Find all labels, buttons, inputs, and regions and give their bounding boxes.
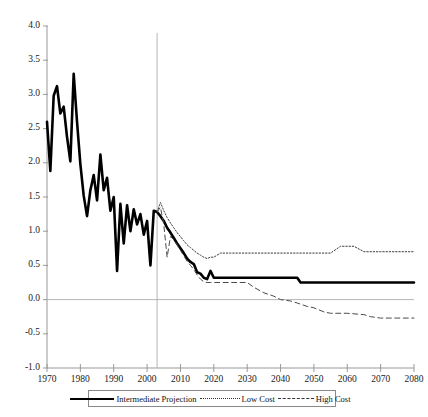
legend-item-intermediate-projection: Intermediate Projection bbox=[70, 394, 199, 404]
chart-legend: Intermediate Projection Low Cost High Co… bbox=[88, 390, 336, 407]
y-axis-label-0p0: 0.0 bbox=[8, 293, 40, 303]
y-axis-label-1p0: 1.0 bbox=[8, 225, 40, 235]
y-axis-label-neg0p5: -0.5 bbox=[8, 327, 40, 337]
dashed-line-swatch-icon bbox=[278, 398, 314, 399]
legend-item-low-cost: Low Cost bbox=[200, 394, 278, 404]
y-axis-label-1p5: 1.5 bbox=[8, 191, 40, 201]
legend-label-intermediate-projection: Intermediate Projection bbox=[116, 394, 196, 404]
legend-item-high-cost: High Cost bbox=[278, 394, 354, 404]
series-line-intermediate-projection bbox=[47, 74, 414, 283]
y-axis-label-4p0: 4.0 bbox=[8, 20, 40, 30]
x-axis-label-2080: 2080 bbox=[394, 374, 428, 384]
dotted-line-swatch-icon bbox=[200, 398, 240, 399]
y-axis-label-3p0: 3.0 bbox=[8, 88, 40, 98]
series-line-high-cost bbox=[157, 207, 414, 318]
y-axis-label-neg1p0: -1.0 bbox=[8, 362, 40, 372]
legend-label-high-cost: High Cost bbox=[316, 394, 351, 404]
y-axis-label-2p0: 2.0 bbox=[8, 156, 40, 166]
y-axis-label-3p5: 3.5 bbox=[8, 54, 40, 64]
y-axis-label-2p5: 2.5 bbox=[8, 122, 40, 132]
solid-line-swatch-icon bbox=[70, 398, 114, 400]
series-line-low-cost bbox=[157, 202, 414, 258]
legend-label-low-cost: Low Cost bbox=[242, 394, 275, 404]
y-axis-label-0p5: 0.5 bbox=[8, 259, 40, 269]
